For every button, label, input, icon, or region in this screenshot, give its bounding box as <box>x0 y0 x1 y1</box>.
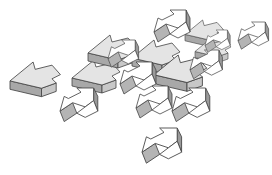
arrow-left-1 <box>10 62 60 97</box>
arrow-right-2 <box>238 22 269 49</box>
arrow-right-3 <box>60 88 98 122</box>
arrow-right-6 <box>172 88 210 122</box>
arrow-right-1 <box>154 10 190 42</box>
arrow-right-4 <box>120 62 156 94</box>
arrow-right-7 <box>142 128 182 163</box>
arrow-right-5 <box>136 86 172 118</box>
arrows-illustration <box>0 0 272 175</box>
